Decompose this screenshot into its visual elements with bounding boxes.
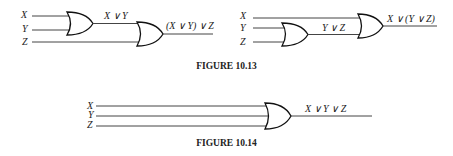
figure-caption: FIGURE 10.14 (196, 138, 257, 148)
fig-10-13-right-circuit: X Y Z Y ∨ Z X ∨ (Y ∨ Z) (239, 10, 437, 47)
input-label-z: Z (240, 36, 246, 47)
fig-10-13-left-circuit: X Y Z X ∨ Y (X ∨ Y) ∨ Z (20, 9, 214, 47)
or-gate-icon (282, 23, 308, 46)
intermediate-label: X ∨ Y (103, 10, 129, 21)
input-label-z: Z (22, 36, 28, 47)
figure-caption: FIGURE 10.13 (196, 61, 257, 71)
or-gate-icon (137, 22, 163, 46)
input-label-z: Z (87, 119, 93, 130)
input-label-x: X (20, 9, 28, 20)
input-label-y: Y (240, 22, 247, 33)
logic-diagram: X Y Z X ∨ Y (X ∨ Y) ∨ Z X Y Z Y ∨ Z X ∨ … (0, 0, 453, 156)
input-label-x: X (239, 10, 247, 21)
output-label: X ∨ Y ∨ Z (304, 103, 347, 114)
output-label: X ∨ (Y ∨ Z) (386, 13, 436, 25)
fig-10-14-circuit: X Y Z X ∨ Y ∨ Z (86, 100, 372, 130)
or-gate-icon (67, 12, 93, 35)
or-gate-icon (358, 14, 383, 38)
input-label-y: Y (22, 23, 29, 34)
intermediate-label: Y ∨ Z (322, 22, 346, 33)
or-gate-icon (265, 103, 291, 129)
output-label: (X ∨ Y) ∨ Z (166, 20, 214, 32)
